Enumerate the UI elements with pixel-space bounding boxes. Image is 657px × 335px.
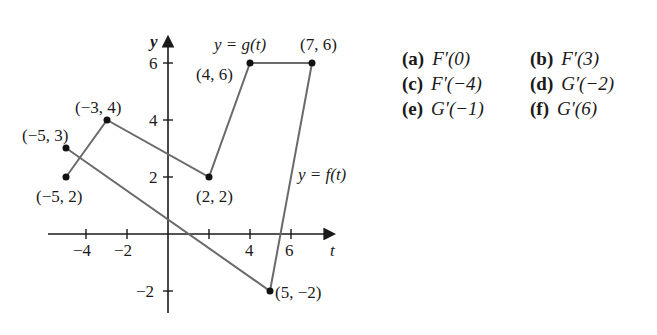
x-tick-label: −2 (114, 241, 132, 260)
curve-label-g: y = g(t) (212, 35, 266, 54)
graph: −4 −2 4 6 6 4 2 −2 y t (−5, 3) (−3, 4) (… (0, 0, 360, 335)
point-label: (−3, 4) (75, 98, 121, 117)
curve-f (66, 63, 312, 177)
exercise-list: (a)F′(0) (b)F′(3) (c)F′(−4) (d)G′(−2) (e… (402, 46, 657, 121)
exercise-item: (f)G′(6) (530, 96, 657, 121)
exercise-row: (e)G′(−1) (f)G′(6) (402, 96, 657, 121)
point-label: (−5, 3) (22, 126, 68, 145)
x-tick-label: 4 (245, 241, 254, 260)
exercise-row: (c)F′(−4) (d)G′(−2) (402, 71, 657, 96)
t-axis-label: t (330, 241, 336, 260)
point-label: (5, −2) (275, 283, 321, 302)
y-axis-label: y (148, 32, 158, 51)
point-label: (−5, 2) (36, 187, 82, 206)
x-tick-label: 6 (285, 241, 294, 260)
exercise-item: (d)G′(−2) (530, 71, 657, 96)
exercise-item: (a)F′(0) (402, 46, 530, 71)
point-label: (4, 6) (196, 65, 233, 84)
curve-label-f: y = f(t) (296, 165, 347, 184)
y-tick-label: 4 (149, 111, 158, 130)
data-points (63, 60, 316, 295)
y-tick-label: 6 (149, 54, 158, 73)
y-tick-label: 2 (149, 168, 158, 187)
point-label: (2, 2) (196, 187, 233, 206)
exercise-item: (c)F′(−4) (402, 71, 530, 96)
x-tick-label: −4 (73, 241, 92, 260)
point-label: (7, 6) (300, 35, 337, 54)
exercise-item: (e)G′(−1) (402, 96, 530, 121)
exercise-row: (a)F′(0) (b)F′(3) (402, 46, 657, 71)
exercise-item: (b)F′(3) (530, 46, 657, 71)
y-tick-label: −2 (136, 282, 154, 301)
